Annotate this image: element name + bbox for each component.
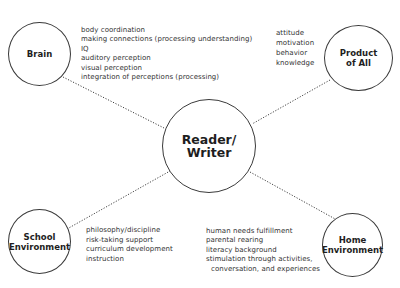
node-product-of-all: Product of All xyxy=(324,25,393,91)
list-item: parental rearing xyxy=(206,236,320,245)
list-item: making connections (processing understan… xyxy=(81,35,252,44)
list-item: behavior xyxy=(276,48,314,58)
node-school-label: School Environment xyxy=(9,232,70,252)
brain-attributes-list: body coordination making connections (pr… xyxy=(81,26,252,82)
home-attributes-list: human needs fulfillment parental rearing… xyxy=(206,227,320,274)
list-item: conversation, and experiences xyxy=(206,265,320,274)
connector-home xyxy=(250,172,337,220)
node-school-environment: School Environment xyxy=(8,209,71,274)
connector-product xyxy=(252,80,330,124)
node-home-label: Home Environment xyxy=(322,235,383,255)
diagram-canvas: Reader/ Writer Brain body coordination m… xyxy=(0,0,400,288)
list-item: literacy background xyxy=(206,246,320,255)
node-reader-writer: Reader/ Writer xyxy=(162,99,256,193)
connector-school xyxy=(67,171,170,229)
list-item: body coordination xyxy=(81,26,252,35)
list-item: integration of perceptions (processing) xyxy=(81,73,252,82)
node-brain: Brain xyxy=(8,22,71,86)
list-item: stimulation through activities, xyxy=(206,255,320,264)
list-item: risk-taking support xyxy=(86,236,173,246)
list-item: philosophy/discipline xyxy=(86,226,173,236)
list-item: IQ xyxy=(81,45,252,54)
connector-brain xyxy=(63,77,164,128)
list-item: knowledge xyxy=(276,58,314,68)
node-reader-writer-label: Reader/ Writer xyxy=(182,133,237,159)
node-brain-label: Brain xyxy=(27,49,52,59)
list-item: auditory perception xyxy=(81,54,252,63)
list-item: visual perception xyxy=(81,64,252,73)
list-item: human needs fulfillment xyxy=(206,227,320,236)
school-attributes-list: philosophy/discipline risk-taking suppor… xyxy=(86,226,173,264)
list-item: attitude xyxy=(276,28,314,38)
list-item: motivation xyxy=(276,38,314,48)
list-item: curriculum development xyxy=(86,245,173,255)
node-home-environment: Home Environment xyxy=(322,213,383,277)
node-product-label: Product of All xyxy=(340,48,378,68)
product-attributes-list: attitude motivation behavior knowledge xyxy=(276,28,314,68)
list-item: instruction xyxy=(86,255,173,265)
